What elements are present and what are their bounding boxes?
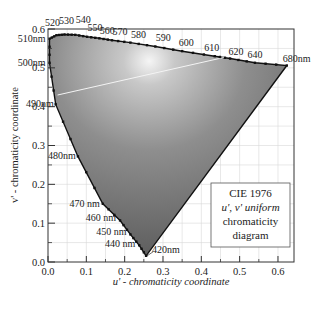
wavelength-label-440: 440 nm (105, 238, 136, 249)
chromaticity-chart: 420nm440 nm450 nm460 nm470 nm480nm490nm5… (0, 0, 311, 311)
wavelength-label-530: 530 (59, 15, 74, 26)
y-tick-label: 0.3 (32, 140, 45, 151)
x-tick-label: 0.6 (271, 266, 284, 277)
legend-line-3: chromaticity (223, 215, 279, 227)
y-tick-label: 0.1 (32, 218, 45, 229)
x-axis-title: u' - chromaticity coordinate (113, 276, 230, 287)
y-tick-label: 0.6 (32, 24, 45, 35)
wavelength-label-590: 590 (156, 32, 171, 43)
y-axis-title: v' - chromaticity coordinate (9, 87, 20, 203)
wavelength-label-600: 600 (179, 37, 194, 48)
legend-line-1: CIE 1976 (229, 187, 272, 199)
wavelength-label-680: 680nm (283, 53, 311, 64)
x-tick-label: 0.1 (80, 266, 93, 277)
wavelength-label-520: 520 (45, 17, 60, 28)
legend-line-2: u', v' uniform (221, 201, 279, 213)
x-tick-label: 0.0 (41, 266, 54, 277)
y-tick-label: 0.5 (32, 62, 45, 73)
x-tick-label: 0.5 (233, 266, 246, 277)
legend-line-4: diagram (232, 229, 268, 241)
wavelength-label-450: 450 nm (96, 226, 127, 237)
wavelength-label-580: 580 (131, 29, 146, 40)
wavelength-label-610: 610 (204, 42, 219, 53)
wavelength-label-470: 470 nm (70, 198, 101, 209)
wavelength-label-420: 420nm (152, 244, 180, 255)
y-tick-label: 0.4 (32, 101, 46, 112)
wavelength-label-460: 460 nm (86, 212, 117, 223)
y-tick-label: 0.0 (32, 257, 45, 268)
wavelength-label-620: 620 (229, 46, 244, 57)
wavelength-label-640: 640 (247, 49, 262, 60)
wavelength-label-480: 480nm (48, 150, 76, 161)
wavelength-label-570: 570 (113, 26, 128, 37)
y-tick-label: 0.2 (32, 179, 45, 190)
legend-box: CIE 1976 u', v' uniform chromaticity dia… (211, 183, 290, 247)
